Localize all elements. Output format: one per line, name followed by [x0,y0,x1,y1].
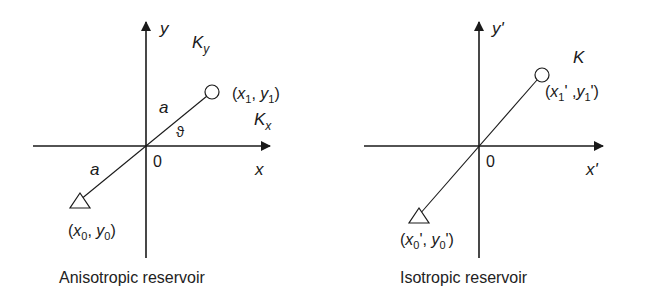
well-connector-line [419,80,537,215]
active-well-triangle-icon [70,193,90,208]
origin-label: 0 [486,153,495,170]
isotropic-caption: Isotropic reservoir [400,269,528,286]
point1-prime-label: (x1' ,y1') [545,83,599,103]
anisotropic-diagram: y Ky (x1, y1) a Kx ϑ 0 x a (x0, y0) Anis… [33,19,280,286]
observation-well-icon [205,85,219,99]
y-prime-axis-label: y' [491,19,505,38]
ky-label: Ky [192,33,210,56]
well-connector-line [80,96,207,200]
y-axis-label: y [159,19,170,38]
distance-a-upper: a [159,98,168,117]
origin-label: 0 [153,153,162,170]
figure-canvas: y Ky (x1, y1) a Kx ϑ 0 x a (x0, y0) Anis… [0,0,648,300]
k-label: K [573,48,585,67]
kx-label: Kx [254,110,272,133]
x-prime-axis-label: x' [585,160,599,179]
anisotropic-caption: Anisotropic reservoir [59,269,206,286]
x-axis-label: x [254,160,264,179]
distance-a-lower: a [90,160,99,179]
point0-prime-label: (x0', y0') [400,231,454,251]
isotropic-diagram: y' K (x1' ,y1') 0 x' (x0', y0') Isotropi… [364,19,603,286]
point0-label: (x0, y0) [68,222,116,242]
point1-label: (x1, y1) [232,85,280,105]
observation-well-icon [535,68,549,82]
angle-theta-label: ϑ [176,123,185,140]
active-well-triangle-icon [409,208,429,223]
